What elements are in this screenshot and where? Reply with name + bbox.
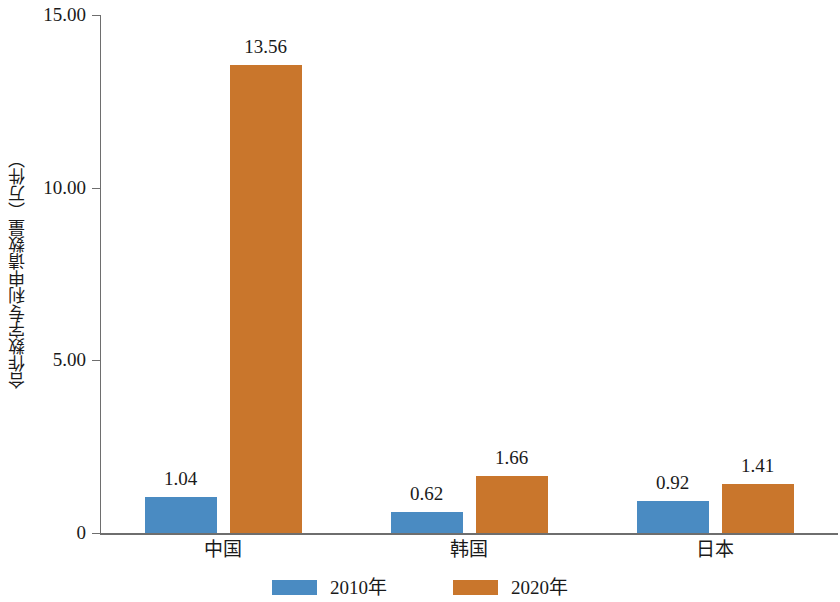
chart-legend: 2010年2020年 — [0, 578, 840, 597]
bar-value-label: 1.04 — [164, 469, 197, 488]
x-axis-category-label: 日本 — [696, 539, 734, 561]
legend-swatch-icon — [453, 580, 498, 595]
legend-label: 2010年 — [330, 578, 387, 597]
y-axis-tick — [92, 15, 101, 16]
y-axis-tick — [92, 188, 101, 189]
bar — [230, 65, 302, 533]
bar — [476, 476, 548, 533]
bar — [145, 497, 217, 533]
bar-value-label: 13.56 — [244, 37, 287, 56]
legend-label: 2020年 — [511, 578, 568, 597]
y-axis-title: 合作数字专利申请数量（万件） — [2, 0, 32, 540]
legend-swatch-icon — [272, 580, 317, 595]
y-axis-tick-label: 0 — [0, 523, 86, 542]
bar-value-label: 1.66 — [495, 448, 528, 467]
bar — [722, 484, 794, 533]
y-axis-tick-label: 10.00 — [0, 178, 86, 197]
x-axis-line — [100, 533, 838, 535]
bar-value-label: 1.41 — [741, 456, 774, 475]
y-axis-tick-label: 5.00 — [0, 350, 86, 369]
legend-item[interactable]: 2020年 — [453, 578, 568, 597]
x-axis-category-label: 韩国 — [450, 539, 488, 561]
x-axis-category-label: 中国 — [204, 539, 242, 561]
y-axis-tick-label: 15.00 — [0, 5, 86, 24]
y-axis-line — [100, 15, 101, 534]
bar-value-label: 0.92 — [656, 473, 689, 492]
bar — [391, 512, 463, 533]
y-axis-tick — [92, 360, 101, 361]
bar — [637, 501, 709, 533]
bar-value-label: 0.62 — [410, 484, 443, 503]
legend-item[interactable]: 2010年 — [272, 578, 387, 597]
bar-chart: 合作数字专利申请数量（万件） 15.0010.005.000 1.0413.56… — [0, 0, 840, 602]
